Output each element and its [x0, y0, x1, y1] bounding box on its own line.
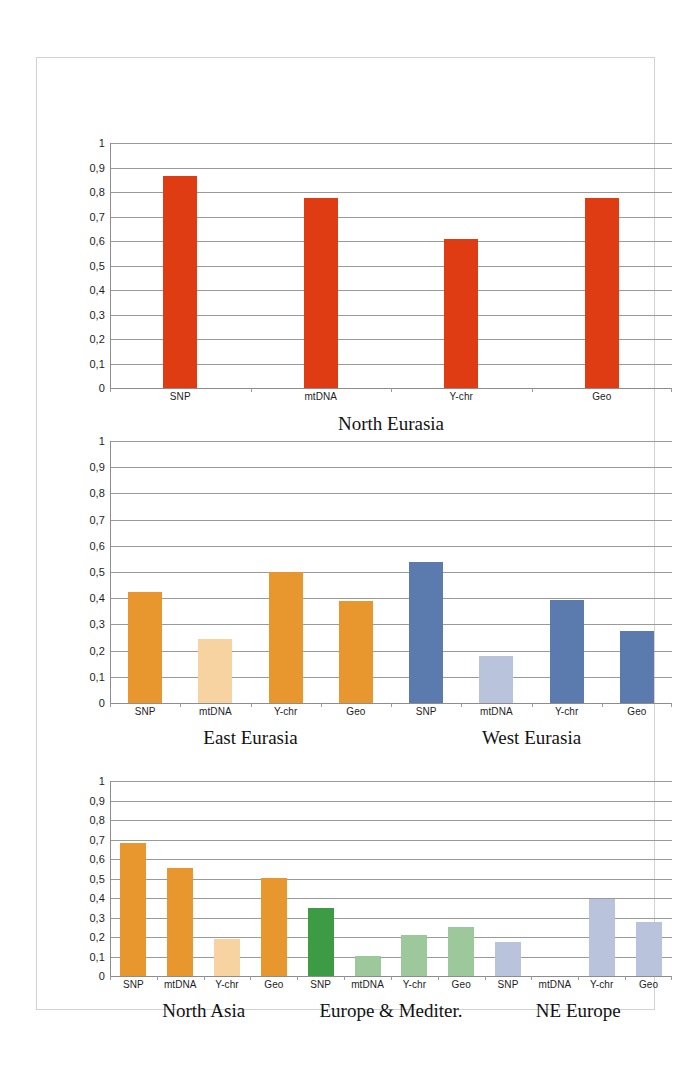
y-tick-label: 0,5: [89, 873, 105, 884]
category-label: Y-chr: [391, 391, 532, 402]
bar: [479, 656, 513, 703]
bar: [339, 601, 373, 703]
bar: [355, 956, 381, 976]
bar-slot: [110, 143, 251, 388]
y-tick-label: 0,5: [89, 567, 105, 578]
y-tick-label: 1: [99, 138, 105, 149]
group-titles-panel3: North AsiaEurope & Mediter.NE Europe: [110, 1000, 672, 1022]
y-tick-label: 0,8: [89, 187, 105, 198]
y-tick-label: 0,1: [89, 358, 105, 369]
bar: [636, 922, 662, 976]
y-tick-label: 1: [99, 776, 105, 787]
plot-area-panel3: [110, 781, 672, 976]
y-tick-label: 0,6: [89, 854, 105, 865]
plot-area-panel2: [110, 441, 672, 703]
bar-slot: [251, 441, 321, 703]
y-tick-label: 0,9: [89, 462, 105, 473]
bar-slot: [531, 781, 578, 976]
bar-slot: [532, 441, 602, 703]
bar: [620, 631, 654, 703]
y-tick-label: 0,6: [89, 236, 105, 247]
y-tick-label: 0,2: [89, 334, 105, 345]
chart-panel-east-west-eurasia: 10,90,80,70,60,50,40,30,20,10 SNPmtDNAY-…: [76, 441, 676, 703]
group-title: NE Europe: [485, 1000, 672, 1022]
category-label: SNP: [110, 979, 157, 990]
bar: [167, 868, 193, 976]
bar-slot: [344, 781, 391, 976]
bar-slot: [391, 781, 438, 976]
group-title: Europe & Mediter.: [297, 1000, 484, 1022]
bar: [448, 927, 474, 976]
bar-slot: [532, 143, 673, 388]
y-tick-label: 0: [99, 698, 105, 709]
category-label: Geo: [532, 391, 673, 402]
category-label: SNP: [391, 706, 461, 717]
group-titles-panel1: North Eurasia: [110, 413, 672, 435]
bar-slot: [602, 441, 672, 703]
y-tick-label: 0,7: [89, 834, 105, 845]
bar: [269, 572, 303, 703]
category-label: Y-chr: [204, 979, 251, 990]
bar: [409, 562, 443, 703]
bar-slot: [250, 781, 297, 976]
bar-slot: [391, 441, 461, 703]
bar: [128, 592, 162, 703]
category-label: Geo: [321, 706, 391, 717]
y-tick-label: 0,4: [89, 593, 105, 604]
group-title: North Eurasia: [110, 413, 672, 435]
bar: [214, 939, 240, 976]
bar-slot: [110, 441, 180, 703]
bar-slot: [204, 781, 251, 976]
figure-frame: 10,90,80,70,60,50,40,30,20,10 SNPmtDNAY-…: [36, 57, 655, 1010]
category-label: mtDNA: [157, 979, 204, 990]
bar-series-panel3: [110, 781, 672, 976]
y-axis-panel2: 10,90,80,70,60,50,40,30,20,10: [76, 441, 110, 703]
bar-slot: [578, 781, 625, 976]
bar-slot: [438, 781, 485, 976]
y-axis-panel1: 10,90,80,70,60,50,40,30,20,10: [76, 143, 110, 388]
y-axis-panel3: 10,90,80,70,60,50,40,30,20,10: [76, 781, 110, 976]
bar-slot: [485, 781, 532, 976]
category-label: Geo: [438, 979, 485, 990]
category-label: SNP: [110, 706, 180, 717]
bar-slot: [297, 781, 344, 976]
bar: [120, 843, 146, 976]
category-label: Geo: [250, 979, 297, 990]
group-title: North Asia: [110, 1000, 297, 1022]
bar-slot: [321, 441, 391, 703]
group-titles-panel2: East EurasiaWest Eurasia: [110, 727, 672, 749]
y-tick-label: 0,9: [89, 795, 105, 806]
y-tick-label: 0,9: [89, 162, 105, 173]
bar-series-panel2: [110, 441, 672, 703]
bar: [401, 935, 427, 976]
bar: [550, 600, 584, 703]
chart-page: 10,90,80,70,60,50,40,30,20,10 SNPmtDNAY-…: [0, 0, 686, 1067]
category-label: Y-chr: [532, 706, 602, 717]
y-tick-label: 0: [99, 971, 105, 982]
y-tick-label: 0,3: [89, 309, 105, 320]
bar-slot: [157, 781, 204, 976]
bar: [261, 878, 287, 976]
y-tick-label: 0,1: [89, 671, 105, 682]
category-label: mtDNA: [344, 979, 391, 990]
category-label: Geo: [625, 979, 672, 990]
y-tick-label: 0,6: [89, 540, 105, 551]
bar-series-panel1: [110, 143, 672, 388]
plot-area-panel1: [110, 143, 672, 388]
bar: [589, 899, 615, 976]
y-tick-label: 0,5: [89, 260, 105, 271]
y-tick-label: 0,7: [89, 211, 105, 222]
category-label: SNP: [297, 979, 344, 990]
chart-panel-north-asia-europe-ne-europe: 10,90,80,70,60,50,40,30,20,10 SNPmtDNAY-…: [76, 781, 676, 976]
y-tick-label: 0,3: [89, 619, 105, 630]
category-label: SNP: [485, 979, 532, 990]
y-tick-label: 0,4: [89, 893, 105, 904]
group-title: East Eurasia: [110, 727, 391, 749]
bar: [495, 942, 521, 976]
category-label: SNP: [110, 391, 251, 402]
bar: [585, 198, 619, 388]
category-label: Y-chr: [251, 706, 321, 717]
bar: [163, 176, 197, 388]
bar: [304, 198, 338, 388]
category-labels-panel1: SNPmtDNAY-chrGeo: [110, 391, 672, 402]
